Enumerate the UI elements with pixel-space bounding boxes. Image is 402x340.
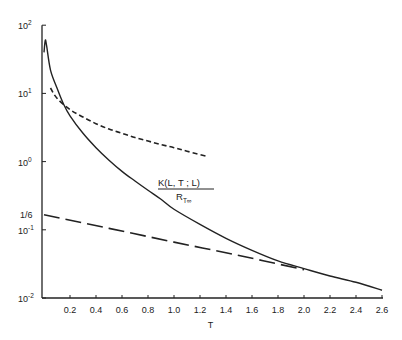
x-tick-label: 0.8	[142, 305, 155, 315]
x-tick-label: 1.4	[220, 305, 233, 315]
x-tick-label: 0.2	[64, 305, 77, 315]
y-tick-label: 101	[18, 87, 32, 99]
series-group	[44, 40, 382, 290]
chart: 10210110010-110-21/60.20.40.60.81.01.21.…	[0, 0, 402, 340]
annotation-denominator: RT∞	[176, 191, 192, 204]
axes: 10210110010-110-21/60.20.40.60.81.01.21.…	[18, 19, 388, 330]
x-tick-label: 2.4	[350, 305, 363, 315]
x-tick-label: 1.2	[194, 305, 207, 315]
series-solid	[44, 40, 382, 290]
y-tick-label: 10-2	[18, 292, 34, 304]
y-tick-label: 102	[18, 19, 32, 31]
x-tick-label: 0.4	[90, 305, 103, 315]
y-label-one-sixth: 1/6	[20, 210, 33, 220]
x-tick-label: 1.0	[168, 305, 181, 315]
y-tick-label: 10-1	[18, 224, 34, 236]
annotation-numerator: K(L, T ; L)	[158, 177, 200, 188]
annotation: K(L, T ; L)RT∞	[158, 177, 214, 204]
x-tick-label: 2.6	[376, 305, 389, 315]
x-tick-label: 1.8	[272, 305, 285, 315]
x-tick-label: 2.2	[324, 305, 337, 315]
x-tick-label: 1.6	[246, 305, 259, 315]
x-tick-label: 2.0	[298, 305, 311, 315]
x-axis-label: T	[208, 320, 214, 330]
series-long-dash	[44, 215, 304, 270]
y-tick-label: 100	[18, 156, 32, 168]
x-tick-label: 0.6	[116, 305, 129, 315]
